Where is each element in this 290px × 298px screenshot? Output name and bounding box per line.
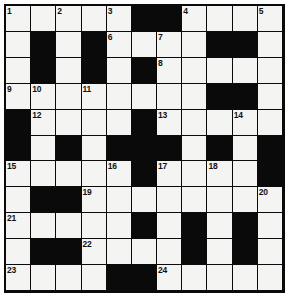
grid-cell-open[interactable]	[6, 239, 31, 265]
grid-cell-open[interactable]: 17	[157, 161, 182, 187]
grid-cell-open[interactable]	[258, 213, 283, 239]
grid-cell-open[interactable]: 2	[56, 6, 81, 32]
grid-cell-open[interactable]	[56, 110, 81, 136]
grid-cell-open[interactable]	[233, 136, 258, 162]
grid-cell-open[interactable]: 23	[6, 265, 31, 291]
grid-cell-open[interactable]: 24	[157, 265, 182, 291]
grid-cell-open[interactable]	[182, 161, 207, 187]
grid-cell-open[interactable]: 5	[258, 6, 283, 32]
grid-cell-open[interactable]	[233, 161, 258, 187]
grid-cell-open[interactable]	[207, 187, 232, 213]
grid-cell-open[interactable]: 7	[157, 32, 182, 58]
grid-cell-open[interactable]	[107, 110, 132, 136]
grid-cell-open[interactable]	[56, 213, 81, 239]
grid-cell-open[interactable]	[258, 32, 283, 58]
grid-cell-open[interactable]: 18	[207, 161, 232, 187]
grid-cell-open[interactable]	[182, 32, 207, 58]
grid-cell-open[interactable]	[31, 161, 56, 187]
grid-cell-open[interactable]	[182, 110, 207, 136]
grid-cell-open[interactable]	[82, 265, 107, 291]
grid-cell-blocked	[31, 187, 56, 213]
grid-cell-open[interactable]	[107, 84, 132, 110]
grid-cell-open[interactable]: 11	[82, 84, 107, 110]
grid-cell-blocked	[207, 136, 232, 162]
clue-number: 9	[7, 84, 12, 94]
clue-number: 5	[259, 6, 264, 16]
grid-cell-open[interactable]	[6, 32, 31, 58]
grid-cell-open[interactable]	[258, 239, 283, 265]
clue-number: 11	[83, 84, 92, 94]
clue-number: 16	[108, 161, 117, 171]
grid-cell-open[interactable]: 10	[31, 84, 56, 110]
grid-cell-open[interactable]: 4	[182, 6, 207, 32]
grid-cell-open[interactable]	[258, 110, 283, 136]
grid-cell-open[interactable]	[233, 187, 258, 213]
grid-cell-open[interactable]	[233, 265, 258, 291]
grid-cell-open[interactable]	[182, 265, 207, 291]
grid-cell-open[interactable]	[82, 6, 107, 32]
grid-cell-open[interactable]	[182, 84, 207, 110]
grid-cell-open[interactable]: 14	[233, 110, 258, 136]
grid-cell-open[interactable]: 8	[157, 58, 182, 84]
grid-cell-open[interactable]	[56, 265, 81, 291]
grid-cell-open[interactable]: 15	[6, 161, 31, 187]
grid-cell-open[interactable]: 20	[258, 187, 283, 213]
grid-cell-open[interactable]	[31, 6, 56, 32]
grid-cell-blocked	[6, 110, 31, 136]
grid-cell-open[interactable]	[207, 213, 232, 239]
grid-cell-open[interactable]	[31, 213, 56, 239]
clue-number: 22	[83, 239, 92, 249]
grid-cell-blocked	[207, 84, 232, 110]
grid-cell-open[interactable]	[56, 84, 81, 110]
grid-cell-open[interactable]: 13	[157, 110, 182, 136]
grid-cell-open[interactable]	[207, 58, 232, 84]
grid-cell-open[interactable]	[132, 32, 157, 58]
grid-cell-open[interactable]	[132, 84, 157, 110]
grid-cell-open[interactable]	[56, 32, 81, 58]
grid-cell-open[interactable]	[56, 161, 81, 187]
grid-cell-open[interactable]	[233, 58, 258, 84]
grid-cell-open[interactable]: 12	[31, 110, 56, 136]
grid-cell-open[interactable]	[31, 136, 56, 162]
grid-cell-open[interactable]	[258, 265, 283, 291]
grid-cell-open[interactable]	[82, 213, 107, 239]
grid-cell-open[interactable]	[82, 161, 107, 187]
grid-cell-open[interactable]: 21	[6, 213, 31, 239]
grid-cell-open[interactable]	[258, 58, 283, 84]
grid-cell-open[interactable]	[182, 58, 207, 84]
grid-cell-open[interactable]	[56, 58, 81, 84]
grid-cell-open[interactable]	[107, 187, 132, 213]
grid-cell-open[interactable]: 1	[6, 6, 31, 32]
grid-cell-open[interactable]: 19	[82, 187, 107, 213]
grid-cell-open[interactable]	[107, 213, 132, 239]
grid-cell-open[interactable]	[82, 110, 107, 136]
grid-cell-open[interactable]: 3	[107, 6, 132, 32]
grid-cell-open[interactable]	[132, 239, 157, 265]
grid-cell-open[interactable]	[6, 187, 31, 213]
grid-cell-open[interactable]	[207, 265, 232, 291]
grid-cell-open[interactable]	[207, 6, 232, 32]
grid-cell-open[interactable]	[157, 84, 182, 110]
grid-cell-open[interactable]	[157, 213, 182, 239]
grid-cell-open[interactable]	[182, 187, 207, 213]
grid-cell-open[interactable]	[6, 58, 31, 84]
grid-cell-open[interactable]	[182, 136, 207, 162]
grid-cell-blocked	[132, 161, 157, 187]
grid-cell-open[interactable]: 9	[6, 84, 31, 110]
grid-cell-open[interactable]	[107, 58, 132, 84]
clue-number: 6	[108, 32, 113, 42]
grid-cell-open[interactable]: 6	[107, 32, 132, 58]
grid-cell-open[interactable]	[132, 187, 157, 213]
grid-cell-open[interactable]	[82, 136, 107, 162]
grid-cell-open[interactable]	[107, 239, 132, 265]
grid-cell-open[interactable]	[207, 110, 232, 136]
clue-number: 23	[7, 265, 16, 275]
grid-cell-open[interactable]: 22	[82, 239, 107, 265]
grid-cell-open[interactable]	[31, 265, 56, 291]
grid-cell-open[interactable]	[207, 239, 232, 265]
grid-cell-open[interactable]	[258, 84, 283, 110]
grid-cell-open[interactable]: 16	[107, 161, 132, 187]
grid-cell-open[interactable]	[157, 187, 182, 213]
grid-cell-open[interactable]	[233, 6, 258, 32]
grid-cell-open[interactable]	[157, 239, 182, 265]
